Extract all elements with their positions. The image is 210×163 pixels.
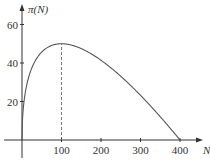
profit-curve [22,44,180,140]
y-axis-label: π(N) [28,3,49,16]
y-tick-label: 60 [7,19,19,31]
chart: 100200300400204060 π(N) N [0,0,210,163]
x-tick-label: 200 [93,144,110,156]
y-axis-arrow-icon [20,4,25,11]
ticks: 100200300400204060 [7,19,189,157]
x-axis-arrow-icon [196,138,203,143]
y-tick-label: 20 [7,96,19,108]
axes [4,4,203,158]
series [22,44,180,140]
x-tick-label: 100 [53,144,70,156]
x-axis-label: N [202,144,210,156]
y-tick-label: 40 [7,57,19,69]
x-tick-label: 400 [172,144,189,156]
x-tick-label: 300 [132,144,149,156]
